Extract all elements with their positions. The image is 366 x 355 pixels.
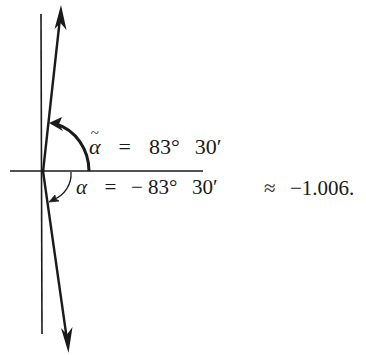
approximation-label: ≈ −1.006. (264, 178, 354, 199)
approx-value: −1.006. (290, 176, 354, 200)
vertical-axis (41, 14, 42, 334)
arc-arrowhead-icon (49, 195, 59, 202)
degrees-value: 83° (148, 175, 177, 199)
alpha-tilde-symbol: ~ α (89, 136, 101, 158)
degrees-value: 83° (149, 134, 180, 159)
equals-sign: = (119, 134, 131, 159)
upper-ray-arrow (43, 5, 67, 172)
tilde-accent: ~ (89, 126, 101, 141)
minus-sign: − (131, 175, 143, 199)
alpha-symbol: α (76, 175, 87, 199)
minutes-value: 30′ (195, 134, 222, 159)
arrowhead-up-icon (55, 5, 67, 30)
alpha-tilde-label: ~ α = 83° 30′ (89, 136, 222, 158)
approx-sign: ≈ (264, 176, 276, 200)
alpha-label: α = − 83° 30′ (76, 177, 217, 198)
alpha-arc (49, 172, 71, 202)
minutes-value: 30′ (192, 175, 218, 199)
equals-sign: = (105, 175, 117, 199)
alpha-tilde-arc (49, 117, 89, 171)
arc-arrowhead-icon (49, 117, 63, 131)
